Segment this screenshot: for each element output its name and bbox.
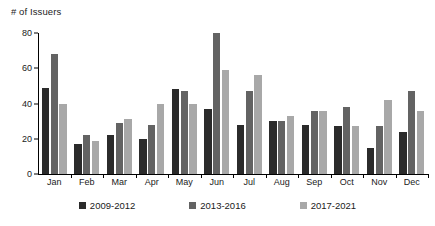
bar-group — [367, 33, 392, 174]
x-tick-mark — [168, 174, 169, 178]
bar-group — [302, 33, 327, 174]
bar-group — [237, 33, 262, 174]
bar — [59, 104, 66, 175]
bar-group — [172, 33, 197, 174]
bar — [302, 125, 309, 174]
legend-item[interactable]: 2009-2012 — [79, 200, 135, 211]
legend-label: 2009-2012 — [90, 200, 135, 211]
bar — [237, 125, 244, 174]
x-tick-label: Jun — [209, 177, 224, 187]
legend-label: 2013-2016 — [200, 200, 245, 211]
y-tick-label: 60 — [0, 63, 32, 73]
bar — [287, 116, 294, 174]
x-tick-label: Oct — [340, 177, 354, 187]
bar — [343, 107, 350, 174]
x-tick-mark — [331, 174, 332, 178]
legend-item[interactable]: 2013-2016 — [189, 200, 245, 211]
bar — [408, 91, 415, 174]
bar — [92, 141, 99, 174]
bar — [42, 88, 49, 174]
x-tick-label: Sep — [306, 177, 322, 187]
bar — [124, 119, 131, 174]
bar — [417, 111, 424, 174]
x-tick-mark — [396, 174, 397, 178]
y-tick-label: 80 — [0, 28, 32, 38]
bar — [334, 126, 341, 174]
x-tick-label: Aug — [274, 177, 290, 187]
x-tick-label: Dec — [404, 177, 420, 187]
bar — [222, 70, 229, 174]
x-tick-mark — [136, 174, 137, 178]
bar-group — [269, 33, 294, 174]
chart-legend: 2009-20122013-20162017-2021 — [0, 200, 435, 211]
x-tick-mark — [103, 174, 104, 178]
bar — [204, 109, 211, 174]
x-tick-mark — [298, 174, 299, 178]
bar-group — [334, 33, 359, 174]
bar — [384, 100, 391, 174]
bar — [399, 132, 406, 174]
bar-group — [74, 33, 99, 174]
x-tick-label: Jul — [243, 177, 255, 187]
bar — [107, 135, 114, 174]
bar — [254, 75, 261, 174]
bar — [246, 91, 253, 174]
bar — [148, 125, 155, 174]
bar — [213, 33, 220, 174]
x-tick-mark — [363, 174, 364, 178]
bar — [181, 91, 188, 174]
bar-chart: # of Issuers 020406080 JanFebMarAprMayJu… — [0, 0, 435, 226]
bar — [172, 89, 179, 174]
x-tick-label: Feb — [79, 177, 95, 187]
bar — [311, 111, 318, 174]
x-tick-mark — [428, 174, 429, 178]
plot-area — [38, 33, 428, 174]
bar — [51, 54, 58, 174]
bar-group — [204, 33, 229, 174]
x-tick-mark — [233, 174, 234, 178]
bar — [352, 126, 359, 174]
bar — [278, 121, 285, 174]
bar — [367, 148, 374, 174]
y-tick-label: 40 — [0, 99, 32, 109]
x-tick-label: May — [176, 177, 193, 187]
legend-swatch — [79, 202, 86, 209]
x-tick-mark — [201, 174, 202, 178]
bar — [139, 139, 146, 174]
x-tick-label: Nov — [371, 177, 387, 187]
bar-group — [42, 33, 67, 174]
legend-label: 2017-2021 — [311, 200, 356, 211]
bar-group — [399, 33, 424, 174]
bar — [269, 121, 276, 174]
legend-swatch — [189, 202, 196, 209]
legend-item[interactable]: 2017-2021 — [300, 200, 356, 211]
legend-swatch — [300, 202, 307, 209]
bar-group — [107, 33, 132, 174]
x-tick-label: Jan — [47, 177, 62, 187]
x-tick-mark — [71, 174, 72, 178]
x-tick-mark — [266, 174, 267, 178]
x-tick-label: Apr — [145, 177, 159, 187]
y-tick-label: 20 — [0, 134, 32, 144]
bar — [157, 104, 164, 175]
bar-group — [139, 33, 164, 174]
x-tick-label: Mar — [112, 177, 128, 187]
bar — [189, 104, 196, 175]
bar — [74, 144, 81, 174]
bar — [116, 123, 123, 174]
bar — [83, 135, 90, 174]
bar — [319, 111, 326, 174]
y-tick-label: 0 — [0, 169, 32, 179]
bar — [376, 126, 383, 174]
chart-axis-title: # of Issuers — [11, 6, 61, 17]
